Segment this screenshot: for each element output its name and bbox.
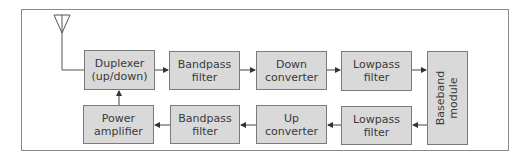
baseband-module-label: Baseband module xyxy=(435,71,461,125)
baseband-module-block: Baseband module xyxy=(427,51,468,145)
rx-bandpass-filter-block: Bandpass filter xyxy=(169,51,240,90)
antenna-icon xyxy=(54,15,84,70)
duplexer-block: Duplexer (up/down) xyxy=(84,50,155,90)
tx-lowpass-filter-block: Lowpass filter xyxy=(341,106,412,145)
up-converter-block: Up converter xyxy=(256,105,327,144)
power-amplifier-block: Power amplifier xyxy=(83,105,154,144)
down-converter-block: Down converter xyxy=(256,51,327,90)
rx-lowpass-filter-block: Lowpass filter xyxy=(341,51,412,91)
tx-bandpass-filter-block: Bandpass filter xyxy=(170,105,240,144)
